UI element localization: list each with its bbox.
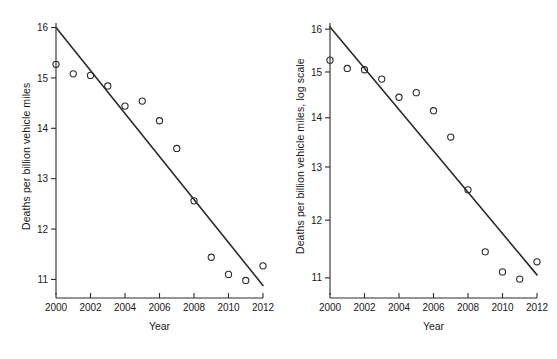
- data-point-left-2001: [70, 71, 76, 77]
- x-tick-label-left-2002: 2002: [79, 302, 102, 313]
- data-point-right-2003: [379, 76, 385, 82]
- data-point-left-2003: [105, 83, 111, 89]
- y-tick-label-right-15: 15: [311, 67, 323, 78]
- chart-panel-left: 1112131415162000200220042006200820102012…: [0, 0, 278, 359]
- trend-line-right: [330, 27, 537, 275]
- x-tick-label-left-2012: 2012: [252, 302, 275, 313]
- scatter-plot-left: 1112131415162000200220042006200820102012: [0, 0, 278, 359]
- data-point-left-2010: [225, 271, 231, 277]
- x-tick-label-left-2006: 2006: [148, 302, 171, 313]
- x-tick-label-right-2010: 2010: [491, 302, 514, 313]
- x-axis-label-left: Year: [56, 320, 263, 332]
- trend-line-left: [56, 28, 263, 286]
- y-tick-label-right-16: 16: [311, 24, 323, 35]
- data-point-right-2001: [344, 65, 350, 71]
- data-point-right-2010: [499, 269, 505, 275]
- y-axis-label-right: Deaths per billion vehicle miles, log sc…: [294, 58, 306, 254]
- y-tick-label-left-15: 15: [37, 73, 49, 84]
- x-tick-label-left-2010: 2010: [217, 302, 240, 313]
- x-tick-label-left-2004: 2004: [114, 302, 137, 313]
- data-point-left-2011: [243, 277, 249, 283]
- y-tick-label-right-12: 12: [311, 215, 323, 226]
- data-point-left-2005: [139, 98, 145, 104]
- data-point-right-2006: [430, 108, 436, 114]
- data-point-left-2004: [122, 103, 128, 109]
- y-axis-label-left: Deaths per billion vehicle miles: [20, 82, 32, 229]
- figure-panel-container: 1112131415162000200220042006200820102012…: [0, 0, 557, 359]
- x-tick-label-right-2008: 2008: [457, 302, 480, 313]
- y-tick-label-right-14: 14: [311, 112, 323, 123]
- data-point-left-2002: [87, 72, 93, 78]
- data-point-left-2007: [174, 145, 180, 151]
- y-tick-label-left-16: 16: [37, 22, 49, 33]
- y-tick-label-left-14: 14: [37, 123, 49, 134]
- x-axis-label-right: Year: [330, 320, 537, 332]
- data-point-right-2012: [534, 259, 540, 265]
- x-tick-label-right-2000: 2000: [319, 302, 342, 313]
- data-point-left-2006: [156, 118, 162, 124]
- x-tick-label-right-2004: 2004: [388, 302, 411, 313]
- data-point-right-2011: [517, 276, 523, 282]
- data-point-right-2004: [396, 94, 402, 100]
- x-tick-label-right-2002: 2002: [353, 302, 376, 313]
- scatter-plot-right: 1112131415162000200220042006200820102012: [278, 0, 556, 359]
- y-tick-label-left-13: 13: [37, 173, 49, 184]
- y-tick-label-right-13: 13: [311, 162, 323, 173]
- data-point-right-2005: [413, 90, 419, 96]
- x-tick-label-right-2012: 2012: [526, 302, 549, 313]
- x-tick-label-left-2000: 2000: [45, 302, 68, 313]
- x-tick-label-right-2006: 2006: [422, 302, 445, 313]
- y-tick-label-left-12: 12: [37, 224, 49, 235]
- chart-panel-right: 1112131415162000200220042006200820102012…: [278, 0, 556, 359]
- data-point-left-2012: [260, 263, 266, 269]
- data-point-right-2009: [482, 249, 488, 255]
- x-tick-label-left-2008: 2008: [183, 302, 206, 313]
- y-tick-label-left-11: 11: [38, 274, 49, 285]
- y-tick-label-right-11: 11: [312, 272, 323, 283]
- data-point-right-2007: [448, 134, 454, 140]
- data-point-left-2009: [208, 254, 214, 260]
